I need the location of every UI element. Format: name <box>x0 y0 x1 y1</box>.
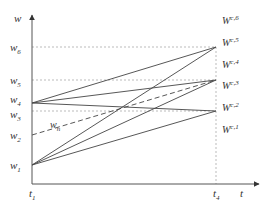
guide-lines <box>32 47 216 184</box>
svg-text:w5: w5 <box>10 74 21 89</box>
y-axis-label: w <box>14 12 22 24</box>
x-tick-labels: t1 t4 <box>29 187 220 202</box>
y-tick-labels: w6 w5 w4 w3 w2 w1 <box>10 41 21 174</box>
svg-text:Wc,1: Wc,1 <box>222 123 239 135</box>
svg-text:t4: t4 <box>213 187 220 202</box>
lines-from-w1 <box>32 47 216 165</box>
svg-text:w6: w6 <box>10 41 21 56</box>
svg-text:Wc,4: Wc,4 <box>222 58 239 70</box>
svg-text:w1: w1 <box>10 159 21 174</box>
svg-text:Wc,3: Wc,3 <box>222 79 239 91</box>
right-labels: Wc,6 Wc,5 Wc,4 Wc,3 Wc,2 Wc,1 <box>222 14 239 135</box>
svg-text:w3: w3 <box>10 108 21 123</box>
svg-text:Wc,5: Wc,5 <box>222 36 239 48</box>
svg-text:Wc,2: Wc,2 <box>222 101 239 113</box>
svg-text:t1: t1 <box>29 187 36 202</box>
diagram-canvas: w t w6 w5 w4 w3 w2 w1 t1 t4 wn Wc,6 Wc,5… <box>0 0 269 210</box>
x-axis-label: t <box>240 187 244 199</box>
wn-label: wn <box>50 119 61 133</box>
svg-text:w2: w2 <box>10 129 21 144</box>
svg-text:w4: w4 <box>10 93 21 108</box>
lines-from-w4 <box>32 47 216 111</box>
svg-text:Wc,6: Wc,6 <box>222 14 239 26</box>
